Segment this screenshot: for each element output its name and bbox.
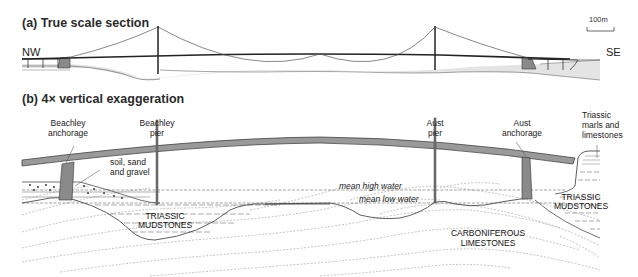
seabed-sediment	[22, 60, 600, 80]
beachley-pier-label: Beachley pier	[140, 118, 176, 138]
mean-low-water-label: mean low water	[359, 194, 420, 204]
svg-text:CARBONIFEROUS: CARBONIFEROUS	[451, 228, 525, 238]
beachley-anchorage-label: Beachley anchorage	[48, 118, 88, 138]
svg-text:MUDSTONES: MUDSTONES	[554, 201, 608, 211]
direction-nw-label: NW	[22, 46, 41, 58]
aust-anchorage	[522, 157, 532, 199]
panel-a-true-scale: (a) True scale section NW SE 100m	[22, 15, 621, 80]
mean-high-water-label: mean high water	[339, 181, 403, 191]
svg-text:Beachley: Beachley	[140, 118, 176, 128]
svg-text:limestones: limestones	[582, 130, 623, 140]
svg-text:Aust: Aust	[513, 118, 531, 128]
triassic-mudstones-left-label: TRIASSIC MUDSTONES	[138, 211, 192, 230]
svg-text:LIMESTONES: LIMESTONES	[461, 238, 516, 248]
aust-anchorage-label: Aust anchorage	[502, 118, 542, 138]
svg-text:pier: pier	[150, 128, 164, 138]
aust-pier-label: Aust pier	[426, 118, 444, 138]
svg-text:anchorage: anchorage	[48, 128, 88, 138]
se-anchorage	[522, 58, 536, 69]
scale-bar-label: 100m	[589, 15, 608, 24]
svg-text:and gravel: and gravel	[110, 167, 150, 177]
soil-sand-gravel-label: soil, sand and gravel	[110, 157, 150, 177]
svg-text:Triassic: Triassic	[582, 110, 612, 120]
svg-text:soil, sand: soil, sand	[110, 157, 146, 167]
bridge-deck	[22, 54, 570, 59]
bridge-cross-section-diagram: (a) True scale section NW SE 100m	[0, 0, 638, 277]
svg-text:pier: pier	[428, 128, 442, 138]
scale-bar: 100m	[587, 15, 614, 31]
svg-text:anchorage: anchorage	[502, 128, 542, 138]
svg-text:Beachley: Beachley	[51, 118, 87, 128]
bridge-deck-exaggerated	[22, 137, 575, 166]
panel-b-vertical-exaggeration: (b) 4× vertical exaggeration	[22, 92, 623, 276]
svg-text:MUDSTONES: MUDSTONES	[138, 220, 192, 230]
carboniferous-limestones-label: CARBONIFEROUS LIMESTONES	[451, 228, 525, 248]
triassic-mudstone-basin-left	[75, 200, 330, 240]
triassic-mudstones-right-label: TRIASSIC MUDSTONES	[554, 192, 608, 211]
panel-a-title: (a) True scale section	[22, 16, 149, 30]
beachley-anchorage	[59, 162, 74, 200]
panel-b-title: (b) 4× vertical exaggeration	[22, 92, 184, 106]
svg-text:Aust: Aust	[426, 118, 444, 128]
triassic-marls-label: Triassic marls and limestones	[582, 110, 623, 140]
svg-text:marls and: marls and	[582, 120, 620, 130]
direction-se-label: SE	[606, 46, 621, 58]
